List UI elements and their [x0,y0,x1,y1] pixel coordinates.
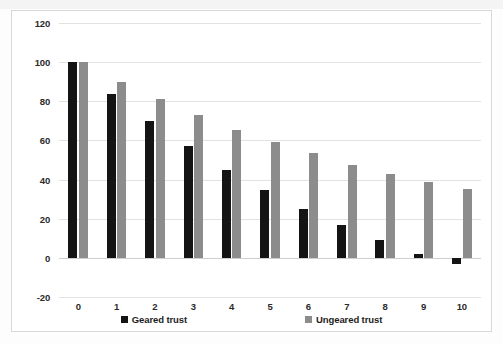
bar-geared-5 [260,190,269,258]
plot-area [59,23,481,297]
bars-layer [59,23,481,297]
chart-legend: Geared trust Ungeared trust [12,314,491,325]
y-tick-label-40: 40 [40,174,50,185]
bar-ungeared-2 [156,99,165,258]
bar-geared-2 [145,121,154,258]
x-tick-label-3: 3 [191,301,196,312]
bar-geared-3 [184,146,193,258]
bar-geared-0 [68,62,77,258]
y-tick-label-80: 80 [40,96,50,107]
legend-item-geared-trust: Geared trust [121,314,187,325]
legend-swatch-icon-geared [121,316,128,323]
bar-ungeared-4 [232,130,241,258]
legend-label-ungeared: Ungeared trust [316,314,382,325]
y-tick-label-20: 20 [40,213,50,224]
gridline--20 [59,297,481,298]
bar-ungeared-0 [79,62,88,258]
bar-ungeared-6 [309,153,318,258]
x-tick-label-4: 4 [229,301,234,312]
bar-ungeared-1 [117,82,126,258]
y-tick-label--20: -20 [37,292,50,303]
legend-item-ungeared-trust: Ungeared trust [305,314,382,325]
chart-frame: 120100806040200-20 012345678910 Geared t… [11,10,492,332]
bar-ungeared-10 [463,189,472,258]
chart-screenshot: 120100806040200-20 012345678910 Geared t… [0,0,503,344]
bar-ungeared-7 [348,165,357,258]
bar-geared-1 [107,94,116,258]
y-axis-labels: 120100806040200-20 [12,23,56,297]
scan-noise-band [0,0,503,9]
x-tick-label-7: 7 [344,301,349,312]
bar-geared-4 [222,170,231,258]
bar-geared-8 [375,240,384,258]
bar-ungeared-5 [271,142,280,258]
bar-geared-9 [414,254,423,258]
bar-geared-6 [299,209,308,258]
x-tick-label-5: 5 [267,301,272,312]
bar-geared-10 [452,258,461,264]
x-tick-label-0: 0 [76,301,81,312]
bar-ungeared-8 [386,174,395,258]
x-tick-label-8: 8 [383,301,388,312]
bar-ungeared-3 [194,115,203,258]
bar-geared-7 [337,225,346,258]
x-tick-label-10: 10 [457,301,467,312]
x-tick-label-6: 6 [306,301,311,312]
bar-ungeared-9 [424,182,433,258]
y-tick-label-60: 60 [40,135,50,146]
x-tick-label-9: 9 [421,301,426,312]
y-tick-label-120: 120 [35,18,50,29]
legend-label-geared: Geared trust [132,314,187,325]
legend-swatch-icon-ungeared [305,316,312,323]
y-tick-label-100: 100 [35,57,50,68]
y-tick-label-0: 0 [45,252,50,263]
x-tick-label-1: 1 [114,301,119,312]
x-tick-label-2: 2 [152,301,157,312]
